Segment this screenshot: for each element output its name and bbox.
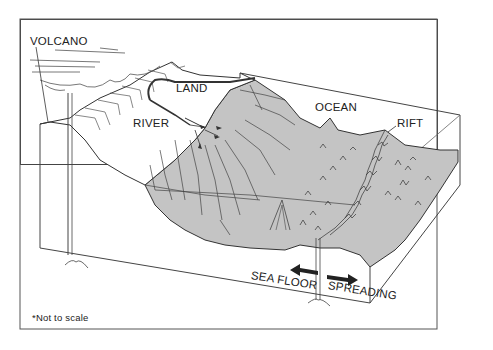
label-rift: RIFT — [397, 118, 423, 130]
block-diagram-svg — [0, 0, 493, 350]
label-river: RIVER — [133, 118, 169, 130]
label-volcano: VOLCANO — [30, 36, 88, 48]
label-land: LAND — [176, 83, 207, 95]
arrow-left-icon — [290, 264, 318, 276]
footnote-not-to-scale: *Not to scale — [32, 313, 88, 323]
label-ocean: OCEAN — [315, 102, 357, 114]
